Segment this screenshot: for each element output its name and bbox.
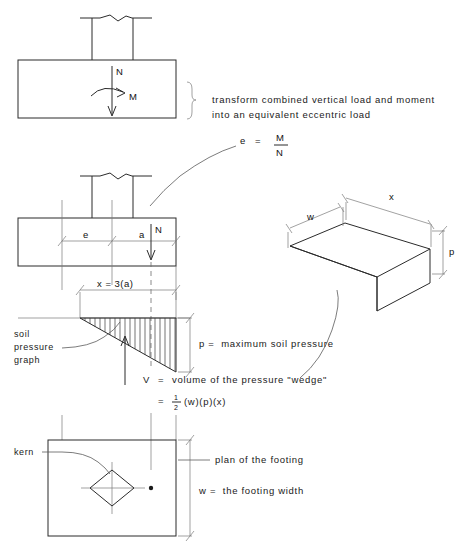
kern-label: kern	[14, 447, 34, 457]
transform-brace-group: transform combined vertical load and mom…	[187, 82, 435, 120]
pressure-wedge-3d: w x p	[286, 191, 455, 311]
w-dimension-line	[290, 207, 340, 228]
eccentricity-formula: e = M N	[150, 132, 288, 206]
soil-pressure-triangle-group: x = 3(a)	[14, 278, 334, 385]
volume-equals-2: =	[158, 395, 164, 406]
transform-note-line2: into an equivalent eccentric load	[212, 109, 371, 120]
eccentricity-dim-label: e	[83, 229, 89, 240]
normal-force-label: N	[116, 66, 123, 77]
footing-width-note: w = the footing width	[198, 485, 304, 496]
eccentricity-denominator: N	[276, 147, 283, 158]
max-pressure-note: p = maximum soil pressure	[199, 338, 334, 349]
soil-graph-label-line2: pressure	[14, 342, 54, 352]
eccentricity-symbol: e	[240, 135, 245, 146]
wedge-height-label: p	[449, 246, 455, 257]
engineering-diagram-svg: N M transform combined vertical load and…	[0, 0, 465, 547]
pressure-triangle-outline	[80, 318, 176, 372]
eccentricity-leader-line	[150, 146, 236, 206]
volume-symbol: V	[143, 374, 150, 385]
plan-note: plan of the footing	[215, 454, 304, 465]
wedge-front-slant-edge	[290, 246, 377, 311]
soil-graph-leader-line	[62, 322, 120, 348]
volume-frac-denominator: 2	[174, 404, 178, 411]
wedge-length-label: x	[389, 191, 394, 202]
x-expression-label: x = 3(a)	[97, 278, 133, 289]
footing-rectangle-2	[18, 218, 176, 266]
soil-graph-label-line1: soil	[14, 329, 30, 339]
column2-break-zigzag	[100, 173, 132, 179]
diagram-sheet: N M transform combined vertical load and…	[0, 0, 465, 547]
footing-plan-with-kern: kern plan of the footing w = the footing…	[14, 413, 304, 541]
volume-frac-numerator: 1	[174, 394, 178, 401]
soil-graph-label-line3: graph	[14, 355, 40, 365]
wedge-width-label: w	[306, 211, 314, 222]
pressure-triangle-hatching	[85, 318, 175, 371]
w-dim-tick-left	[286, 224, 292, 233]
column-break-zigzag	[100, 15, 132, 21]
volume-equals-1: =	[158, 374, 164, 385]
wedge-leader-line	[300, 290, 338, 378]
moment-label: M	[129, 91, 137, 102]
wedge-top-face	[290, 223, 430, 277]
eccentricity-numerator: M	[276, 132, 284, 143]
kern-leader-line	[42, 452, 110, 474]
a-dim-label: a	[139, 229, 145, 240]
resultant-point-marker	[149, 486, 153, 490]
wedge-bottom-front-edge	[377, 283, 430, 311]
footing-elevation-combined-load: N M	[18, 15, 176, 118]
eccentricity-equals: =	[255, 135, 261, 146]
footing-rectangle-1	[18, 60, 176, 118]
volume-note: volume of the pressure "wedge"	[172, 374, 327, 385]
x3d-dimension-line	[346, 198, 430, 224]
volume-formula-group: V = volume of the pressure "wedge" = 1 2…	[143, 290, 338, 411]
volume-formula-tail: (w)(p)(x)	[184, 396, 226, 407]
curly-brace	[187, 82, 196, 119]
eccentric-normal-force-label: N	[155, 224, 162, 235]
transform-note-line1: transform combined vertical load and mom…	[212, 94, 435, 105]
